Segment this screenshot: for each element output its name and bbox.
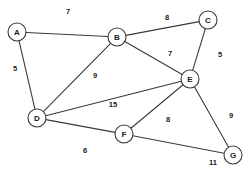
edge-a-d [19,41,35,109]
edge-weight-b-e: 7 [168,49,172,58]
edge-weight-d-f: 6 [83,146,87,155]
node-label-b: B [114,33,120,42]
edge-weight-a-b: 7 [66,7,70,16]
edge-d-f [46,120,115,133]
node-g[interactable]: G [224,146,242,164]
node-label-a: A [14,28,20,37]
node-f[interactable]: F [115,125,133,143]
node-label-f: F [122,130,127,139]
edge-a-b [26,32,108,36]
edge-weight-b-d: 9 [93,71,97,80]
node-label-c: C [205,16,211,25]
edge-weight-c-e: 5 [218,50,222,59]
edge-weight-d-e: 15 [109,100,117,109]
edge-weight-b-c: 8 [165,13,169,22]
edge-b-e [125,41,182,74]
edge-e-f [131,85,183,128]
node-e[interactable]: E [181,70,199,88]
edge-c-e [193,29,206,71]
node-b[interactable]: B [108,28,126,46]
edge-weight-a-d: 5 [13,64,17,73]
edge-weight-e-f: 8 [166,115,170,124]
node-d[interactable]: D [28,109,46,127]
edge-e-g [194,87,228,147]
node-label-e: E [187,75,193,84]
graph-diagram-canvas: ABCDEFG 7589751568911 [0,0,252,177]
nodes-layer: ABCDEFG [8,11,242,164]
edge-weight-f-g: 11 [209,158,217,167]
edge-d-e [46,81,182,116]
node-c[interactable]: C [199,11,217,29]
edge-f-g [133,136,224,154]
graph-svg: ABCDEFG 7589751568911 [0,0,252,177]
node-a[interactable]: A [8,23,26,41]
edge-weight-e-g: 9 [229,111,233,120]
node-label-d: D [34,114,40,123]
edge-b-c [126,22,199,36]
node-label-g: G [230,151,236,160]
